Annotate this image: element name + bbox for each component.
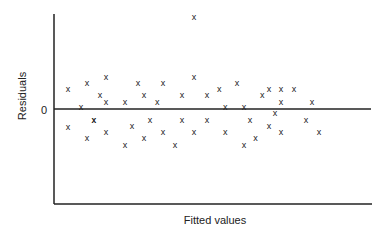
data-point-marker: x bbox=[192, 127, 197, 137]
data-point-marker: x bbox=[104, 127, 109, 137]
data-point-marker: x bbox=[66, 122, 71, 132]
data-point-marker: x bbox=[260, 90, 265, 100]
data-point-marker: x bbox=[310, 97, 315, 107]
data-point-marker: x bbox=[130, 121, 135, 131]
data-point-marker: x bbox=[123, 140, 128, 150]
data-point-marker: x bbox=[85, 133, 90, 143]
x-axis-label: Fitted values bbox=[184, 214, 246, 226]
data-point-marker: x bbox=[242, 140, 247, 150]
data-point-marker: x bbox=[235, 78, 240, 88]
data-point-marker: x bbox=[267, 121, 272, 131]
data-point-marker: x bbox=[192, 12, 197, 22]
data-point-marker: x bbox=[253, 133, 258, 143]
data-point-marker: x bbox=[279, 97, 284, 107]
data-point-marker: x bbox=[180, 90, 185, 100]
data-point-marker: x bbox=[123, 97, 128, 107]
data-points: xxxxxxxxxxxxxxxxxxxxxxxxxxxxxxxxxxxxxxxx… bbox=[66, 12, 322, 150]
data-point-marker: x bbox=[292, 84, 297, 94]
data-point-marker: x bbox=[155, 97, 160, 107]
data-point-marker: x bbox=[79, 102, 84, 112]
data-point-marker: x bbox=[317, 127, 322, 137]
data-point-marker: x bbox=[205, 115, 210, 125]
data-point-marker: x bbox=[223, 127, 228, 137]
data-point-marker: x bbox=[205, 90, 210, 100]
data-point-marker: x bbox=[223, 102, 228, 112]
data-point-marker: x bbox=[273, 108, 278, 118]
y-tick-zero: 0 bbox=[41, 104, 47, 116]
data-point-marker: x bbox=[136, 78, 141, 88]
data-point-marker: x bbox=[279, 127, 284, 137]
data-point-marker: x bbox=[192, 72, 197, 82]
data-point-marker: x bbox=[85, 78, 90, 88]
data-point-marker: x bbox=[173, 140, 178, 150]
data-point-marker: x bbox=[217, 84, 222, 94]
data-point-marker: x bbox=[161, 127, 166, 137]
data-point-marker: x bbox=[180, 115, 185, 125]
data-point-marker: x bbox=[242, 102, 247, 112]
data-point-marker: x bbox=[104, 72, 109, 82]
data-point-marker: x bbox=[98, 90, 103, 100]
data-point-marker: x bbox=[92, 115, 97, 125]
data-point-marker: x bbox=[66, 84, 71, 94]
data-point-marker: x bbox=[304, 115, 309, 125]
data-point-marker: x bbox=[104, 97, 109, 107]
data-point-marker: x bbox=[142, 133, 147, 143]
data-point-marker: x bbox=[142, 90, 147, 100]
data-point-marker: x bbox=[161, 78, 166, 88]
data-point-marker: x bbox=[267, 84, 272, 94]
data-point-marker: x bbox=[279, 84, 284, 94]
data-point-marker: x bbox=[248, 115, 253, 125]
data-point-marker: x bbox=[148, 115, 153, 125]
y-axis-label: Residuals bbox=[16, 72, 28, 120]
residual-plot: xxxxxxxxxxxxxxxxxxxxxxxxxxxxxxxxxxxxxxxx… bbox=[0, 0, 391, 231]
